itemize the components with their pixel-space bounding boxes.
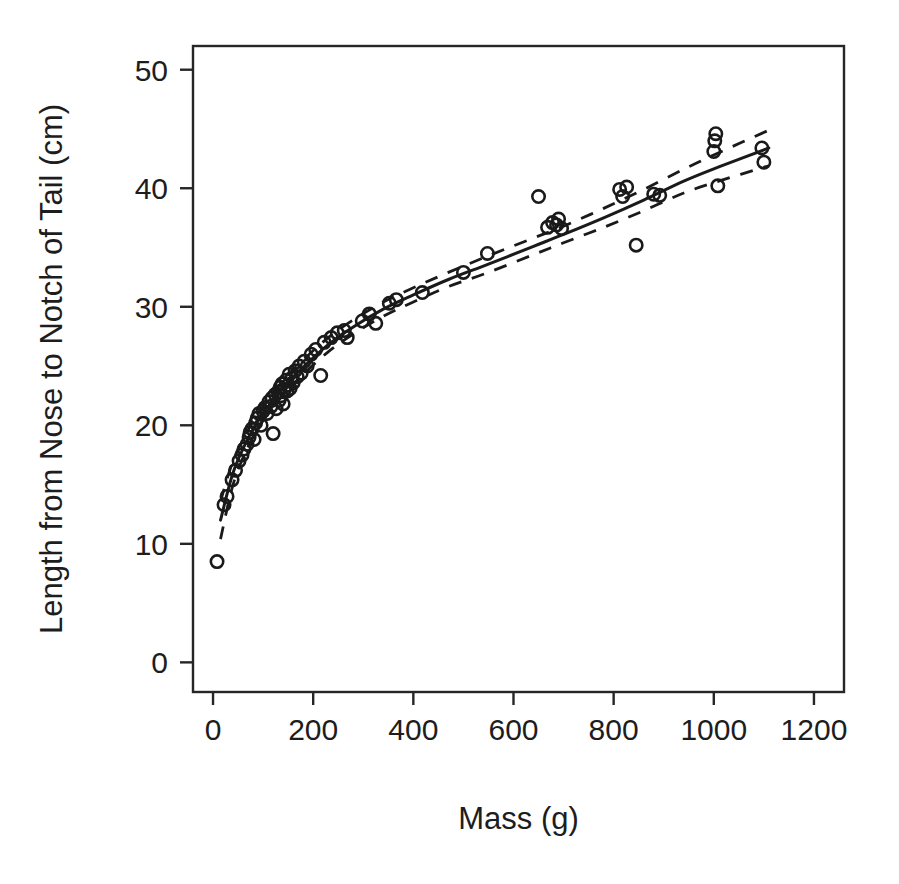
x-tick-label: 600 <box>488 713 538 746</box>
data-point-marker <box>630 239 642 251</box>
y-tick-label: 10 <box>135 528 168 561</box>
scatter-plot-figure: 02004006008001000120001020304050 Mass (g… <box>0 0 899 884</box>
y-tick-label: 50 <box>135 54 168 87</box>
confidence-band-line <box>221 130 769 501</box>
y-tick-label: 30 <box>135 291 168 324</box>
x-tick-label: 0 <box>205 713 222 746</box>
data-point-marker <box>532 190 544 202</box>
x-tick-label: 800 <box>589 713 639 746</box>
data-point-marker <box>315 369 327 381</box>
confidence-bands <box>221 130 769 539</box>
confidence-band-line <box>221 166 769 539</box>
y-tick-label: 40 <box>135 172 168 205</box>
x-axis-label: Mass (g) <box>458 801 579 836</box>
x-tick-label: 1000 <box>680 713 747 746</box>
data-points <box>211 128 770 568</box>
plot-canvas: 02004006008001000120001020304050 Mass (g… <box>0 0 899 884</box>
y-axis-label: Length from Nose to Notch of Tail (cm) <box>34 104 69 634</box>
data-point-marker <box>267 427 279 439</box>
fitted-curve <box>221 148 769 520</box>
x-tick-label: 1200 <box>781 713 848 746</box>
x-tick-label: 400 <box>388 713 438 746</box>
x-tick-label: 200 <box>288 713 338 746</box>
y-tick-label: 0 <box>151 646 168 679</box>
fitted-curve-line <box>221 148 769 520</box>
y-tick-label: 20 <box>135 409 168 442</box>
data-point-marker <box>211 555 223 567</box>
